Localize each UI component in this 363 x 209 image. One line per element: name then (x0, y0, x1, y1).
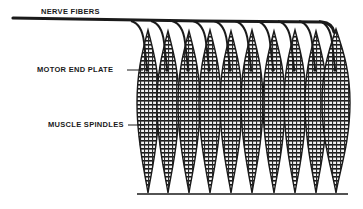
motor-end-plate (207, 68, 211, 72)
motor-end-plate (333, 68, 337, 72)
motor-end-plate (228, 68, 232, 72)
muscle-spindle (178, 31, 200, 193)
diagram-artwork (0, 0, 363, 209)
muscle-spindle (220, 31, 242, 193)
muscle-spindle (263, 31, 285, 193)
motor-end-plate (165, 68, 169, 72)
motor-end-plate (145, 68, 149, 72)
nerve-fibers-label: NERVE FIBERS (41, 8, 100, 16)
nerve-muscle-diagram: NERVE FIBERS MOTOR END PLATE MUSCLE SPIN… (0, 0, 363, 209)
muscle-spindles-label: MUSCLE SPINDLES (48, 121, 124, 129)
motor-end-plate (271, 68, 275, 72)
motor-end-plate (292, 68, 296, 72)
muscle-spindle (284, 30, 306, 193)
motor-end-plate (313, 68, 317, 72)
muscle-spindles-group (137, 29, 350, 193)
motor-end-plate-label: MOTOR END PLATE (37, 66, 113, 74)
motor-end-plate (249, 68, 253, 72)
muscle-spindle (322, 29, 350, 193)
muscle-spindle (157, 31, 179, 193)
muscle-spindle (199, 30, 221, 193)
muscle-spindle (137, 30, 159, 193)
motor-end-plate (186, 68, 190, 72)
muscle-spindle (241, 30, 263, 193)
